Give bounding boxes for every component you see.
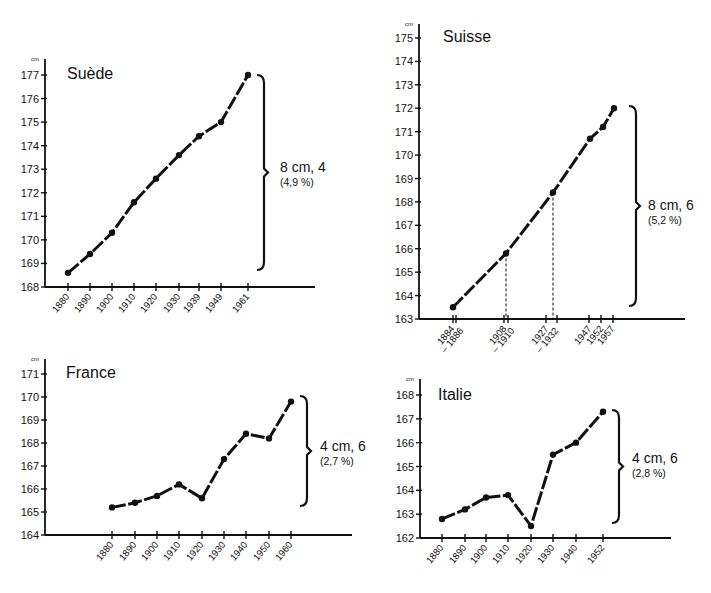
x-tick-label: 1890: [447, 542, 469, 565]
y-tick-label: 173: [395, 79, 413, 91]
height-trends-figure: Suède 8 cm, 4 (4,9 %) cm 168169170171172…: [0, 0, 711, 593]
range-brace: [612, 410, 623, 523]
data-point: [109, 230, 115, 236]
data-point: [462, 506, 468, 512]
y-unit-label: cm: [406, 376, 414, 382]
y-tick-label: 164: [21, 529, 39, 541]
annotation-percent: (5,2 %): [648, 214, 682, 226]
x-tick-label: 1910: [161, 539, 183, 562]
range-brace: [300, 396, 311, 506]
panel-title: Suisse: [443, 28, 491, 45]
data-point: [153, 175, 159, 181]
x-tick-label: 1950: [251, 539, 273, 562]
data-point: [245, 72, 251, 78]
y-tick-label: 168: [396, 389, 414, 401]
x-tick-label: 1910: [116, 291, 138, 314]
annotation-increase: 8 cm, 6: [648, 197, 694, 213]
y-tick-label: 164: [396, 484, 414, 496]
data-point: [87, 251, 93, 257]
data-point: [221, 456, 227, 462]
x-tick-label: 1900: [139, 539, 161, 562]
panel-title: Suède: [67, 65, 113, 82]
x-tick-label: 1900: [468, 542, 490, 565]
data-point: [611, 105, 617, 111]
x-tick-label: 1880: [424, 542, 446, 565]
data-point: [176, 152, 182, 158]
chart-panel-france: France 4 cm, 6 (2,7 %) cm 16416516616716…: [21, 356, 366, 562]
y-tick-label: 166: [21, 483, 39, 495]
range-brace: [257, 75, 268, 270]
y-tick-label: 165: [396, 461, 414, 473]
y-tick-label: 170: [395, 149, 413, 161]
range-brace: [629, 106, 640, 306]
y-tick-label: 171: [395, 126, 413, 138]
y-unit-label: cm: [31, 356, 39, 362]
chart-panel-italy: Italie 4 cm, 6 (2,8 %) cm 16216316416516…: [396, 376, 678, 565]
y-tick-label: 165: [395, 266, 413, 278]
data-point: [550, 189, 556, 195]
data-point: [266, 435, 272, 441]
y-tick-label: 169: [21, 414, 39, 426]
data-point: [243, 431, 249, 437]
y-tick-label: 171: [21, 368, 39, 380]
annotation-increase: 4 cm, 6: [320, 438, 366, 454]
y-tick-label: 167: [396, 413, 414, 425]
y-tick-label: 174: [395, 55, 413, 67]
data-point: [505, 492, 511, 498]
data-point: [65, 270, 71, 276]
x-tick-label: 1920: [513, 542, 535, 565]
x-tick-label: 1910: [490, 542, 512, 565]
data-point: [196, 133, 202, 139]
data-series-line: [112, 402, 291, 508]
y-tick-label: 168: [21, 281, 39, 293]
annotation-percent: (2,8 %): [632, 467, 666, 479]
data-point: [109, 504, 115, 510]
panel-title: Italie: [438, 386, 472, 403]
annotation-percent: (2,7 %): [320, 455, 354, 467]
y-unit-label: cm: [31, 56, 39, 62]
y-tick-label: 166: [396, 437, 414, 449]
chart-panel-switzerland: Suisse 8 cm, 6 (5,2 %) cm 16316416516616…: [395, 21, 694, 355]
y-tick-label: 169: [21, 257, 39, 269]
x-tick-label: 1920: [138, 291, 160, 314]
y-tick-label: 170: [21, 391, 39, 403]
x-tick-label: 1940: [558, 542, 580, 565]
annotation-increase: 8 cm, 4: [280, 159, 326, 175]
y-tick-label: 168: [395, 196, 413, 208]
y-tick-label: 172: [395, 102, 413, 114]
y-tick-label: 175: [21, 116, 39, 128]
x-tick-label: 1960: [273, 539, 295, 562]
data-point: [483, 494, 489, 500]
annotation-increase: 4 cm, 6: [632, 450, 678, 466]
y-tick-label: 169: [395, 173, 413, 185]
data-point: [439, 516, 445, 522]
y-tick-label: 167: [395, 219, 413, 231]
y-tick-label: 175: [395, 32, 413, 44]
data-point: [131, 199, 137, 205]
y-tick-label: 174: [21, 140, 39, 152]
y-tick-label: 164: [395, 290, 413, 302]
x-tick-label: 1939: [181, 291, 203, 314]
data-point: [550, 451, 556, 457]
x-tick-label: 1930: [206, 539, 228, 562]
y-tick-label: 172: [21, 187, 39, 199]
x-tick-label: 1920: [184, 539, 206, 562]
x-tick-label: 1952: [585, 542, 607, 565]
data-point: [600, 124, 606, 130]
x-tick-label: 1940: [228, 539, 250, 562]
y-tick-label: 173: [21, 163, 39, 175]
x-tick-label: 1949: [203, 291, 225, 314]
y-tick-label: 165: [21, 506, 39, 518]
data-point: [528, 523, 534, 529]
y-tick-label: 170: [21, 234, 39, 246]
y-tick-label: 177: [21, 69, 39, 81]
x-tick-label: 1900: [94, 291, 116, 314]
y-tick-label: 167: [21, 460, 39, 472]
y-tick-label: 168: [21, 437, 39, 449]
y-tick-label: 163: [395, 313, 413, 325]
x-tick-label: 1890: [117, 539, 139, 562]
x-tick-label: 1880: [50, 291, 72, 314]
x-tick-label: 1961: [230, 291, 252, 314]
data-point: [600, 408, 606, 414]
data-point: [199, 495, 205, 501]
